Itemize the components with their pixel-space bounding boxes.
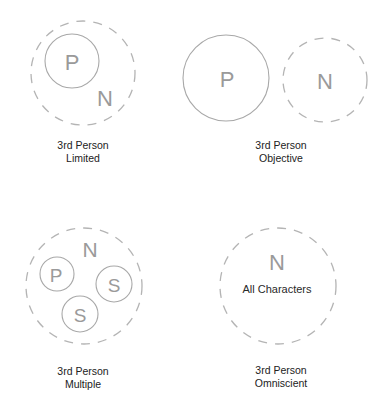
narrator-label: N [97, 86, 113, 111]
diagram-objective: P N [183, 35, 367, 122]
caption-objective: 3rd Person Objective [221, 139, 341, 165]
narrator-label: N [82, 238, 97, 261]
all-characters-label: All Characters [242, 283, 312, 295]
secondary-character-label: S [74, 305, 87, 326]
caption-line: 3rd Person [23, 365, 143, 378]
caption-line: Omniscient [221, 377, 341, 390]
caption-line: Limited [23, 152, 143, 165]
protagonist-label: P [220, 67, 235, 92]
narrator-label: N [317, 69, 333, 94]
secondary-character-label: S [108, 275, 121, 296]
diagram-limited: P N [31, 21, 135, 125]
caption-limited: 3rd Person Limited [23, 139, 143, 165]
pov-diagram: P N P N N P S S N All Characters [0, 0, 385, 415]
caption-line: Multiple [23, 378, 143, 391]
protagonist-label: P [65, 50, 80, 75]
caption-multiple: 3rd Person Multiple [23, 365, 143, 391]
diagram-multiple: N P S S [26, 228, 142, 344]
narrator-label: N [269, 250, 285, 275]
caption-line: 3rd Person [221, 139, 341, 152]
caption-omniscient: 3rd Person Omniscient [221, 364, 341, 390]
caption-line: 3rd Person [23, 139, 143, 152]
caption-line: 3rd Person [221, 364, 341, 377]
diagram-omniscient: N All Characters [220, 228, 336, 344]
protagonist-label: P [50, 265, 63, 286]
caption-line: Objective [221, 152, 341, 165]
